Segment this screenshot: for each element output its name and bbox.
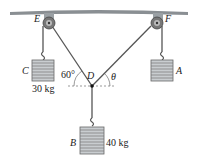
pulley-E	[43, 17, 55, 29]
weight-A	[151, 60, 173, 81]
hook-B	[91, 118, 94, 126]
angle-theta-label: θ	[111, 72, 116, 82]
label-E: E	[34, 14, 40, 24]
hook-A	[161, 52, 164, 60]
angle-60-label: 60°	[61, 70, 75, 80]
label-A: A	[176, 66, 182, 76]
angle-arc-theta	[104, 73, 110, 86]
mass-B: 40 kg	[106, 138, 129, 148]
pulley-diagram	[0, 0, 197, 164]
hook-C	[42, 52, 45, 60]
angle-arc-60	[74, 71, 82, 86]
knot-D	[90, 84, 94, 88]
label-F: F	[165, 14, 171, 24]
weight-B	[80, 127, 104, 154]
label-D: D	[87, 71, 94, 81]
mass-C: 30 kg	[32, 84, 55, 94]
rope-FD	[92, 26, 151, 86]
pulley-F	[151, 17, 163, 29]
weight-C	[32, 60, 54, 81]
label-B: B	[70, 138, 76, 148]
label-C: C	[22, 66, 29, 76]
